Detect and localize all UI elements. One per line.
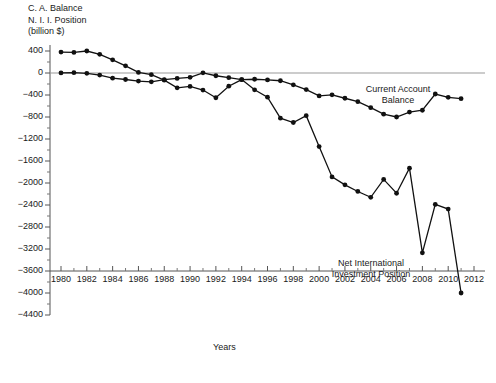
x-axis-title: Years: [213, 342, 236, 352]
y-axis-tick-label: −4400: [3, 309, 43, 319]
series-label-current-account: Current Account Balance: [358, 84, 438, 106]
y-axis-tick-label: −400: [3, 89, 43, 99]
y-axis-tick-label: 0: [3, 67, 43, 77]
y-axis-tick-label: −4000: [3, 287, 43, 297]
y-axis-tick-label: −800: [3, 111, 43, 121]
x-axis-tick-label: 2012: [459, 274, 489, 284]
y-axis-tick-label: −2800: [3, 221, 43, 231]
chart-plot-area: [0, 0, 496, 383]
y-axis-tick-label: −2400: [3, 199, 43, 209]
y-axis-tick-label: 400: [3, 45, 43, 55]
y-axis-tick-label: −3600: [3, 265, 43, 275]
y-axis-tick-label: −1600: [3, 155, 43, 165]
y-axis-tick-label: −2000: [3, 177, 43, 187]
chart-container: C. A. Balance N. I. I. Position (billion…: [0, 0, 496, 383]
y-axis-tick-label: −1200: [3, 133, 43, 143]
y-axis-tick-label: −3200: [3, 243, 43, 253]
